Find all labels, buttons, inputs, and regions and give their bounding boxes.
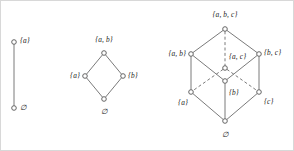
node-empty[interactable] xyxy=(223,119,228,124)
node-label-b: {b} xyxy=(128,72,138,79)
node-c[interactable] xyxy=(257,90,262,95)
node-label-bc: {b, c} xyxy=(264,49,281,56)
edge-a-empty xyxy=(193,93,224,119)
edge-empty-a xyxy=(86,78,102,97)
edge-c-empty xyxy=(227,93,258,119)
node-empty[interactable] xyxy=(102,97,107,102)
node-label-a: {a} xyxy=(178,99,188,106)
edge-ab-b xyxy=(193,55,223,79)
node-label-a: {a} xyxy=(20,37,30,44)
node-label-ac: {a, c} xyxy=(229,53,246,60)
power-set-one-element xyxy=(12,40,17,111)
edge-abc-bc xyxy=(227,30,257,52)
edge-empty-b xyxy=(105,78,121,97)
node-ac[interactable] xyxy=(223,66,228,71)
node-empty[interactable] xyxy=(12,106,17,111)
node-a[interactable] xyxy=(12,40,17,45)
node-b[interactable] xyxy=(223,79,228,84)
diagram-canvas xyxy=(1,1,294,151)
power-set-two-elements xyxy=(83,51,126,102)
node-label-abc: {a, b, c} xyxy=(213,11,238,18)
edge-b-ab xyxy=(105,55,121,74)
node-a[interactable] xyxy=(83,74,88,79)
node-label-a: {a} xyxy=(70,72,80,79)
edge-abc-ab xyxy=(193,30,223,52)
node-label-ab: {a, b} xyxy=(168,50,186,57)
node-label-empty: ∅ xyxy=(101,108,107,115)
node-label-b: {b} xyxy=(229,89,239,96)
edge-ac-a xyxy=(193,69,223,90)
node-ab[interactable] xyxy=(102,51,107,56)
node-label-empty: ∅ xyxy=(222,131,228,138)
node-ab[interactable] xyxy=(189,52,194,57)
node-label-empty: ∅ xyxy=(20,104,26,111)
node-b[interactable] xyxy=(121,74,126,79)
node-abc[interactable] xyxy=(223,27,228,32)
node-a[interactable] xyxy=(189,90,194,95)
node-bc[interactable] xyxy=(257,52,262,57)
node-label-ab: {a, b} xyxy=(95,36,113,43)
node-label-c: {c} xyxy=(264,98,274,105)
edge-a-ab xyxy=(86,55,102,74)
hasse-diagram-figure: {a}∅{a, b}{a}{b}∅{a, b, c}{a, b}{b, c}{a… xyxy=(0,0,294,151)
power-set-three-elements xyxy=(189,27,262,124)
